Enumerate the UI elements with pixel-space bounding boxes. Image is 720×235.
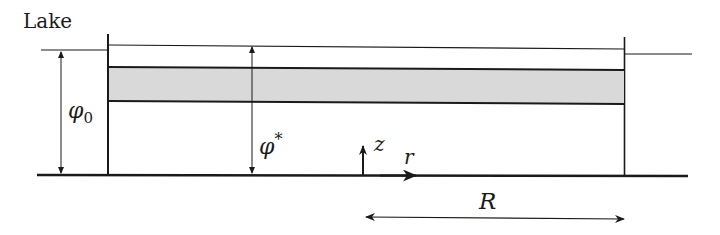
phistar-symbol: φ [259, 134, 274, 159]
phi0-subscript: 0 [83, 109, 93, 127]
radius-label: R [479, 188, 496, 214]
r-axis-text: r [404, 145, 414, 169]
lake-label-text: Lake [23, 9, 72, 33]
radius-text: R [479, 188, 496, 214]
phistar-superscript: * [274, 130, 282, 149]
inner-top-line [109, 45, 624, 49]
gray-layer-band [109, 67, 624, 104]
z-axis-label: z [374, 132, 385, 156]
lake-diagram [0, 0, 720, 235]
phi0-label: φ0 [68, 98, 93, 123]
r-axis-label: r [404, 145, 414, 169]
phistar-label: φ* [259, 134, 282, 159]
phi0-symbol: φ [68, 98, 83, 123]
ground-line [37, 175, 688, 176]
z-axis-text: z [374, 132, 385, 156]
radius-dimension-arrow [366, 217, 624, 219]
lake-label: Lake [23, 9, 72, 33]
